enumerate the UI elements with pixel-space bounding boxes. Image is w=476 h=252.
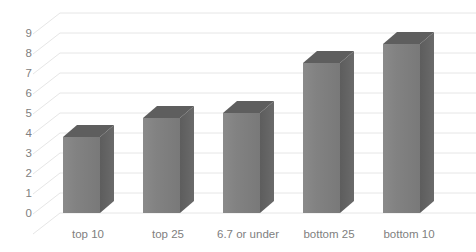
x-tick-top-10: top 10: [72, 228, 104, 240]
x-tick-bottom-10: bottom 10: [383, 228, 434, 240]
x-tick-6-7-or-under: 6.7 or under: [217, 228, 279, 240]
x-tick-bottom-25: bottom 25: [303, 228, 354, 240]
x-tick-top-25: top 25: [152, 228, 184, 240]
x-axis: top 10 top 25 6.7 or under bottom 25 bot…: [0, 0, 476, 252]
bar-chart: 9 8 7 6 5 4 3 2 1 0 top 10 top 25 6.7 or…: [0, 0, 476, 252]
